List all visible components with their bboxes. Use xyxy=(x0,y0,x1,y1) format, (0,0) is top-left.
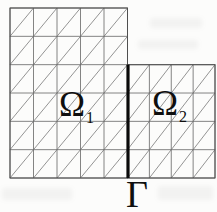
figure-canvas: Ω1 Ω2 Γ xyxy=(0,0,217,212)
omega1-symbol: Ω xyxy=(59,85,85,124)
omega2-symbol: Ω xyxy=(152,84,178,123)
omega1-subscript: 1 xyxy=(86,109,94,126)
gamma-label: Γ xyxy=(126,175,148,212)
omega1-label: Ω1 xyxy=(59,87,93,122)
omega2-label: Ω2 xyxy=(152,86,186,121)
omega2-subscript: 2 xyxy=(179,108,187,125)
